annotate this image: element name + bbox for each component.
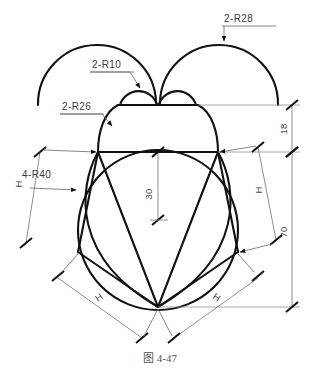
- dim-30-label: 30: [143, 188, 154, 199]
- figure-caption: 图 4-47: [143, 352, 177, 364]
- h-right-upper-leader: [220, 146, 256, 152]
- h-bottom-right-tick-end: [168, 333, 180, 343]
- chord-left-shoulder-to-apex: [98, 152, 158, 307]
- drawing-canvas: 30 18 70 H 4-R40 H: [0, 0, 320, 382]
- h-bottom-left-tick-start: [52, 271, 64, 281]
- h-bottom-right-label: H: [211, 291, 223, 304]
- chord-right-shoulder-to-right-wing: [218, 152, 238, 252]
- r10-leader-tail: [130, 72, 140, 88]
- h-right-upper-label: H: [253, 186, 264, 193]
- arc-r10-right: [159, 91, 196, 105]
- h-bottom-left-label: H: [93, 291, 105, 304]
- h-bottom-right-leader: [238, 254, 254, 272]
- arc-r28-right: [160, 45, 278, 105]
- h-left-upper-tick-top: [34, 147, 46, 157]
- flank-curve-right: [158, 152, 231, 307]
- arc-r26-left: [98, 105, 118, 152]
- arc-r10-left: [120, 91, 157, 105]
- apex-leader-left: [144, 309, 158, 336]
- chord-right-shoulder-to-apex: [158, 152, 218, 307]
- h-right-upper-tick-bottom: [270, 235, 282, 245]
- right-wing-leader: [240, 244, 272, 252]
- r26-label: 2-R26: [62, 101, 91, 112]
- arc-r26-right: [198, 105, 218, 152]
- h-bottom-left-leader: [62, 254, 78, 272]
- h-right-upper-tick-top: [252, 142, 264, 152]
- h-left-upper-label: H: [13, 180, 24, 187]
- h-left-upper-leader: [44, 150, 96, 152]
- r10-label: 2-R10: [92, 59, 121, 70]
- h-left-upper-line: [26, 152, 40, 243]
- h-left-upper-tick-bottom: [20, 238, 32, 248]
- h-bottom-right-tick-start: [252, 271, 264, 281]
- chord-left-shoulder-to-left-wing: [78, 152, 98, 252]
- apex-leader-right: [158, 309, 172, 336]
- dim-18-label: 18: [278, 123, 289, 134]
- flank-curve-left: [85, 152, 158, 307]
- technical-drawing-figure: 30 18 70 H 4-R40 H: [0, 0, 320, 382]
- r28-label: 2-R28: [224, 13, 253, 24]
- r40-leader: [30, 188, 76, 190]
- r40-label: 4-R40: [22, 169, 51, 180]
- arc-r28-left: [38, 45, 156, 105]
